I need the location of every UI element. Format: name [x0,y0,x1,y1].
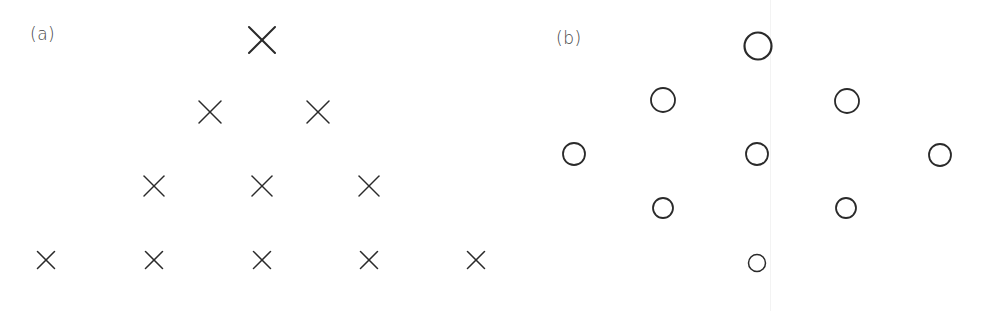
circle-icon [929,144,951,166]
cross-icon [307,101,329,123]
circle-icon [836,198,856,218]
panel-b-circles [563,33,951,272]
circle-icon [745,33,772,60]
cross-icon [252,176,272,196]
cross-icon [146,252,163,269]
panel-b-label: (b) [556,28,582,48]
cross-icon [361,252,378,269]
circle-icon [835,89,859,113]
cross-icon [144,176,164,196]
circle-icon [651,88,675,112]
cross-icon [38,252,55,269]
cross-icon [359,176,379,196]
figure: (a) (b) [0,0,983,311]
cross-icon [254,252,271,269]
cross-icon [199,101,221,123]
cross-icon [249,27,275,53]
panel-a-label: (a) [30,24,55,44]
circle-icon [563,143,585,165]
circle-icon [746,143,768,165]
circle-icon [749,255,766,272]
panel-a-crosses [38,27,485,269]
cross-icon [468,252,485,269]
figure-canvas [0,0,983,311]
circle-icon [653,198,673,218]
